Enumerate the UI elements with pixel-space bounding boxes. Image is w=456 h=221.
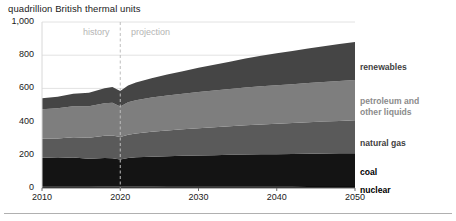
y-tick-label: 200	[0, 149, 34, 159]
y-tick-label: 0	[0, 182, 34, 192]
series-label-renewables: renewables	[360, 62, 407, 73]
y-tick-label: 600	[0, 82, 34, 92]
series-label-natural-gas: natural gas	[360, 138, 406, 149]
series-label-petroleum-line1: petroleum and	[360, 96, 419, 106]
y-tick-label: 400	[0, 116, 34, 126]
series-label-petroleum-line2: other liquids	[360, 107, 412, 117]
footer-divider	[4, 213, 452, 214]
energy-consumption-chart: quadrillion British thermal units 020040…	[0, 0, 456, 221]
series-label-coal: coal	[360, 167, 377, 178]
x-tick-label: 2020	[100, 192, 140, 202]
x-tick-label: 2010	[22, 192, 62, 202]
x-tick-label: 2030	[179, 192, 219, 202]
y-tick-label: 1,000	[0, 16, 34, 26]
x-tick-label: 2040	[257, 192, 297, 202]
annotation-history: history	[83, 27, 110, 37]
series-label-nuclear: nuclear	[360, 185, 391, 196]
y-tick-label: 800	[0, 49, 34, 59]
series-label-petroleum: petroleum andother liquids	[360, 96, 419, 117]
annotation-projection: projection	[131, 27, 170, 37]
